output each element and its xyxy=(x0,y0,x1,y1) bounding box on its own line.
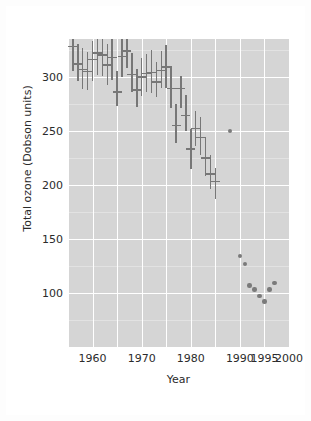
gridline-horizontal xyxy=(68,239,289,240)
data-point xyxy=(228,129,233,134)
figure-canvas: 300250200150100 196019701980199019952000… xyxy=(6,6,305,415)
gridline-horizontal-minor xyxy=(68,104,289,105)
error-bar-mean-tick xyxy=(157,70,166,72)
error-bar xyxy=(97,39,99,75)
error-bar xyxy=(156,62,158,98)
error-bar-mean-tick xyxy=(98,54,107,56)
gridline-horizontal-minor xyxy=(68,158,289,159)
error-bar-mean-tick xyxy=(152,81,161,83)
error-bar xyxy=(215,168,217,199)
x-axis-ticks: 196019701980199019952000 xyxy=(68,352,289,370)
error-bar-mean-tick xyxy=(132,89,141,91)
y-tick-label: 250 xyxy=(42,124,63,137)
gridline-vertical xyxy=(240,39,241,347)
error-bar xyxy=(126,39,128,68)
error-bar-mean-tick xyxy=(172,125,181,127)
x-tick-label: 2000 xyxy=(275,352,303,365)
data-point xyxy=(252,287,257,292)
error-bar xyxy=(72,39,74,71)
error-bar xyxy=(102,39,104,76)
error-bar-mean-tick xyxy=(113,91,122,93)
data-point xyxy=(267,287,272,292)
error-bar xyxy=(111,39,113,80)
data-point xyxy=(272,281,277,286)
y-tick-label: 200 xyxy=(42,178,63,191)
error-bar xyxy=(116,71,118,106)
error-bar-mean-tick xyxy=(118,56,127,58)
error-bar-mean-tick xyxy=(181,115,190,117)
error-bar-mean-tick xyxy=(191,128,200,130)
data-point xyxy=(257,294,262,299)
data-point xyxy=(262,299,267,304)
gridline-horizontal-minor xyxy=(68,320,289,321)
error-bar-mean-tick xyxy=(103,64,112,66)
gridline-horizontal-minor xyxy=(68,212,289,213)
y-tick-label: 100 xyxy=(42,286,63,299)
error-bar xyxy=(180,76,182,108)
error-bar-mean-tick xyxy=(201,157,210,159)
error-bar xyxy=(210,155,212,190)
error-bar-mean-tick xyxy=(147,72,156,74)
error-bar-mean-tick xyxy=(167,88,176,90)
gridline-vertical xyxy=(93,39,94,347)
x-tick-label: 1960 xyxy=(79,352,107,365)
error-bar-mean-tick xyxy=(206,173,215,175)
error-bar xyxy=(185,95,187,131)
error-bar xyxy=(131,53,133,92)
gridline-horizontal xyxy=(68,77,289,78)
error-bar-mean-tick xyxy=(73,63,82,65)
error-bar xyxy=(121,39,123,77)
y-tick-label: 300 xyxy=(42,70,63,83)
error-bar-mean-tick xyxy=(83,71,92,73)
error-bar-mean-tick xyxy=(176,88,185,90)
gridline-vertical xyxy=(191,39,192,347)
error-bar-mean-tick xyxy=(122,50,131,52)
x-axis-label: Year xyxy=(68,373,289,386)
data-point xyxy=(247,283,252,288)
gridline-horizontal-minor xyxy=(68,266,289,267)
y-axis-label: Total ozone (Dobson units) xyxy=(21,64,34,254)
error-bar-mean-tick xyxy=(211,181,220,183)
y-tick-label: 150 xyxy=(42,232,63,245)
error-bar-mean-tick xyxy=(162,66,171,68)
error-bar xyxy=(175,104,177,143)
error-bar-mean-tick xyxy=(68,46,77,48)
error-bar-mean-tick xyxy=(88,59,97,61)
error-bar xyxy=(92,41,94,81)
x-tick-label: 1970 xyxy=(128,352,156,365)
gridline-vertical xyxy=(68,39,69,347)
error-bar-mean-tick xyxy=(137,76,146,78)
plot-area xyxy=(68,39,289,347)
chart-figure: 300250200150100 196019701980199019952000… xyxy=(0,0,311,421)
gridline-horizontal xyxy=(68,185,289,186)
error-bar-mean-tick xyxy=(186,148,195,150)
y-axis-ticks: 300250200150100 xyxy=(6,39,63,347)
gridline-horizontal xyxy=(68,131,289,132)
error-bar-mean-tick xyxy=(108,57,117,59)
gridline-horizontal xyxy=(68,293,289,294)
error-bar-mean-tick xyxy=(127,74,136,76)
error-bar-mean-tick xyxy=(196,137,205,139)
data-point xyxy=(238,254,243,259)
data-point xyxy=(243,262,248,267)
x-tick-label: 1980 xyxy=(177,352,205,365)
